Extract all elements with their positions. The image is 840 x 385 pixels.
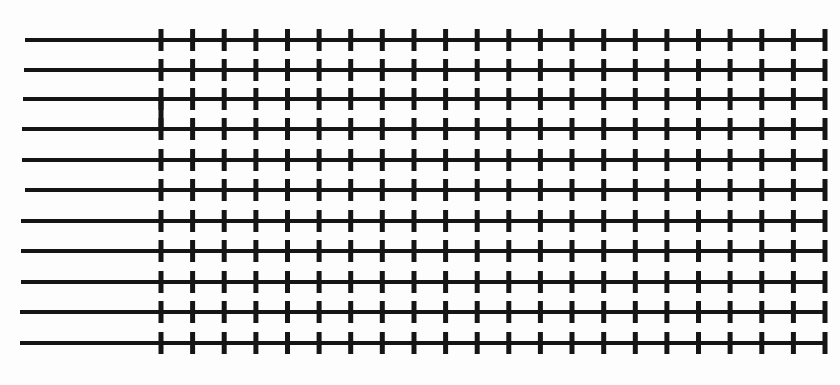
row-line-10 [20, 301, 825, 323]
row-line-2 [24, 59, 825, 81]
row-line-3 [23, 88, 825, 110]
row-line-1 [25, 29, 825, 51]
row-line-7 [21, 210, 825, 232]
diagram-canvas [0, 0, 840, 385]
row-line-8 [21, 240, 825, 262]
ladder-lines-diagram [0, 0, 840, 385]
row-line-9 [21, 271, 825, 293]
row-line-4 [22, 118, 825, 140]
row-line-5 [22, 149, 825, 171]
row-line-11 [20, 332, 825, 354]
row-line-6 [25, 179, 825, 201]
